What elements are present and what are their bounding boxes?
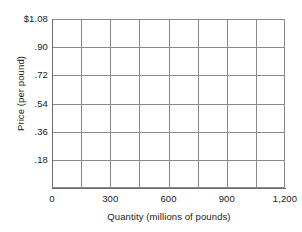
y-axis-line bbox=[52, 19, 53, 189]
x-axis-tick-label: 0 bbox=[22, 193, 82, 204]
horizontal-gridline bbox=[52, 75, 285, 76]
x-axis-tick-label: 900 bbox=[197, 193, 257, 204]
plot-area bbox=[52, 19, 285, 188]
horizontal-gridline bbox=[52, 19, 285, 20]
horizontal-gridline bbox=[52, 132, 285, 133]
x-axis-tick-label: 300 bbox=[80, 193, 140, 204]
horizontal-gridline bbox=[52, 104, 285, 105]
horizontal-gridline bbox=[52, 160, 285, 161]
x-axis-line bbox=[52, 188, 286, 189]
y-axis-tick-label: $1.08 bbox=[0, 14, 48, 24]
horizontal-gridline bbox=[52, 47, 285, 48]
x-axis-tick-label: 600 bbox=[139, 193, 199, 204]
x-axis-title: Quantity (millions of pounds) bbox=[52, 211, 286, 222]
x-axis-tick-label: 1,200 bbox=[255, 193, 302, 204]
y-axis-title: Price (per pound) bbox=[15, 24, 26, 164]
price-quantity-chart: $1.08.90.72.54.36.18 03006009001,200 Pri… bbox=[0, 0, 302, 232]
